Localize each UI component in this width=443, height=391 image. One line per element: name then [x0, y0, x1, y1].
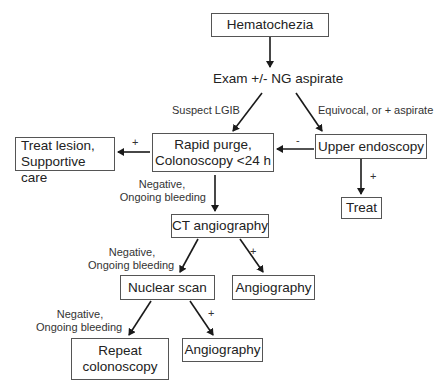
node-angiography-2: Angiography	[182, 338, 263, 362]
node-label: Hematochezia	[227, 17, 313, 33]
edge-label-plus-treat-lesion: +	[132, 136, 138, 149]
edge-label-equivocal: Equivocal, or + aspirate	[318, 104, 433, 117]
node-repeat-colonoscopy: Repeat colonoscopy	[71, 338, 169, 380]
node-label-line2: colonoscopy	[82, 359, 157, 375]
node-upper-endoscopy: Upper endoscopy	[315, 134, 427, 159]
node-rapid-purge-colonoscopy: Rapid purge, Colonoscopy <24 h	[152, 133, 274, 172]
edge-label-line1: Negative,	[118, 178, 206, 191]
edge-label-line1: Negative,	[88, 246, 176, 259]
node-nuclear-scan: Nuclear scan	[120, 275, 215, 300]
node-hematochezia: Hematochezia	[211, 13, 329, 37]
node-label-line2: Supportive care	[21, 154, 114, 186]
node-label: Angiography	[185, 342, 261, 358]
node-label-line1: Treat lesion,	[21, 138, 95, 154]
edge-label-negative-ongoing-3: Negative, Ongoing bleeding	[36, 308, 124, 334]
node-label: Nuclear scan	[128, 280, 207, 296]
edge-label-line2: Ongoing bleeding	[36, 321, 124, 334]
node-label-line2: Colonoscopy <24 h	[155, 153, 271, 169]
edge-label-suspect-lgib: Suspect LGIB	[172, 104, 240, 117]
edge-label-plus-angio-2: +	[208, 307, 214, 320]
edge-label-plus-treat: +	[370, 170, 376, 183]
node-label: CT angiography	[172, 218, 268, 234]
edge-label-negative-ongoing-1: Negative, Ongoing bleeding	[118, 178, 206, 204]
edge-label-line2: Ongoing bleeding	[88, 259, 176, 272]
node-label: Upper endoscopy	[318, 139, 424, 155]
edge-label-plus-angio-1: +	[250, 245, 256, 258]
edge-label-negative-ongoing-2: Negative, Ongoing bleeding	[88, 246, 176, 272]
node-treat-lesion: Treat lesion, Supportive care	[15, 137, 115, 171]
node-label-line1: Repeat	[98, 343, 142, 359]
node-label-line1: Rapid purge,	[174, 137, 251, 153]
node-ct-angiography: CT angiography	[171, 214, 269, 238]
arrow-nuclear-to-repeat-colonoscopy	[129, 301, 151, 335]
node-angiography-1: Angiography	[232, 275, 315, 300]
node-label: Treat	[346, 200, 377, 216]
arrow-ct-to-nuclear	[180, 239, 198, 272]
edge-label-line1: Negative,	[36, 308, 124, 321]
node-label: Angiography	[236, 280, 312, 296]
edge-label-minus-upper: -	[296, 134, 300, 147]
node-exam: Exam +/- NG aspirate	[213, 71, 343, 86]
edge-label-line2: Ongoing bleeding	[118, 191, 206, 204]
node-treat: Treat	[341, 197, 382, 219]
